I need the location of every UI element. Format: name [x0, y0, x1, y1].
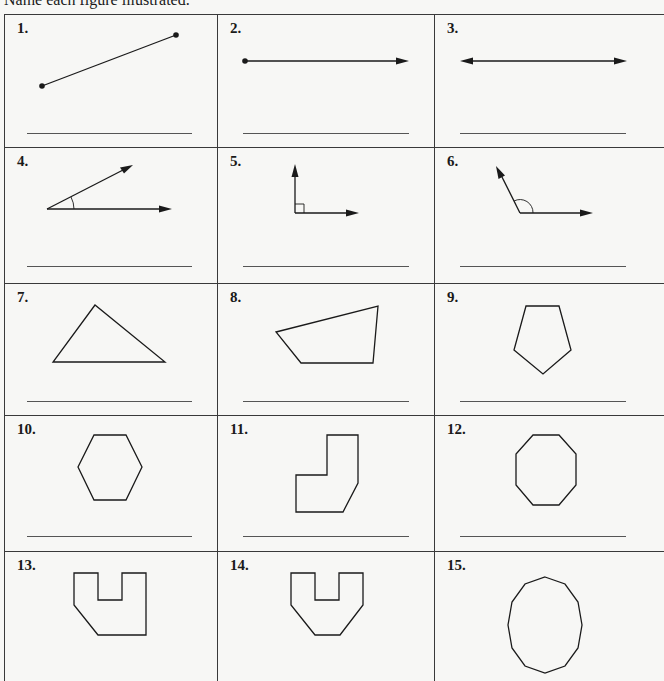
irregular-heptagon-icon — [74, 573, 146, 635]
right-angle-icon — [292, 164, 360, 217]
line-icon — [460, 58, 627, 65]
pentagon-icon — [514, 306, 571, 374]
hexagon-icon — [78, 435, 142, 500]
ray-icon — [242, 58, 409, 65]
octagon-icon — [516, 435, 576, 505]
triangle-icon — [53, 305, 165, 362]
acute-angle-icon — [47, 165, 172, 213]
obtuse-angle-icon — [496, 166, 593, 217]
decagon-icon — [508, 577, 582, 673]
quadrilateral-icon — [276, 306, 378, 363]
irregular-hexagon-icon — [296, 435, 358, 512]
irregular-octagon-icon — [291, 573, 363, 635]
line-segment-icon — [39, 32, 179, 89]
